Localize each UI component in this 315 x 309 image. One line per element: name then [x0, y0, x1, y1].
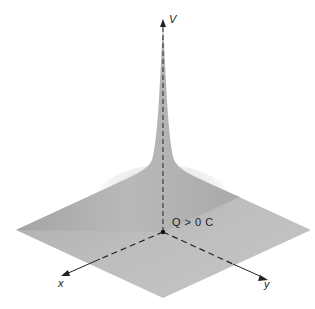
potential-surface-diagram: [0, 0, 315, 309]
y-axis-solid: [233, 264, 262, 277]
charge-label: Q > 0 C: [172, 217, 214, 228]
x-axis-arrowhead-icon: [61, 270, 70, 276]
v-axis-label: V: [169, 14, 176, 25]
v-axis-arrowhead-icon: [160, 19, 166, 27]
x-axis-label: x: [58, 278, 64, 289]
y-axis-label: y: [264, 279, 270, 290]
potential-peak: [16, 22, 240, 232]
x-axis-solid: [66, 259, 100, 274]
point-charge-dot: [161, 230, 165, 234]
